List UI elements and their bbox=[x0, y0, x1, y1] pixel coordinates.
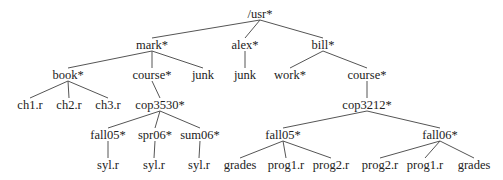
tree-node-b-fall06: fall06* bbox=[422, 129, 457, 142]
edge-b_fall06-f06_prog2 bbox=[380, 141, 440, 158]
tree-node-syl2: syl.r bbox=[143, 159, 165, 172]
edge-spr06-syl2 bbox=[154, 141, 155, 158]
tree-node-syl1: syl.r bbox=[97, 159, 119, 172]
tree-node-alex-junk: junk bbox=[234, 69, 256, 82]
tree-node-work: work* bbox=[274, 69, 306, 82]
edge-book-ch3 bbox=[68, 81, 108, 98]
tree-node-syl3: syl.r bbox=[188, 159, 210, 172]
edge-bill-bill_course bbox=[323, 51, 367, 68]
tree-node-ch2: ch2.r bbox=[56, 99, 81, 112]
tree-node-cop3530: cop3530* bbox=[135, 99, 184, 112]
edge-book-ch2 bbox=[68, 81, 69, 98]
tree-node-ch1: ch1.r bbox=[17, 99, 42, 112]
tree-node-f05-prog2: prog2.r bbox=[313, 159, 349, 172]
tree-node-spr06: spr06* bbox=[138, 129, 172, 142]
tree-node-sum06: sum06* bbox=[180, 129, 220, 142]
edge-usr-mark bbox=[152, 20, 260, 38]
edge-cop3212-b_fall06 bbox=[367, 111, 440, 128]
edge-usr-alex bbox=[245, 20, 260, 38]
edge-book-ch1 bbox=[30, 81, 68, 98]
edge-bill-work bbox=[290, 51, 323, 68]
tree-node-bill: bill* bbox=[312, 39, 335, 52]
edge-mark_course-cop3530 bbox=[152, 81, 160, 98]
tree-node-grades1: grades bbox=[224, 159, 257, 172]
edge-b_fall05-f05_prog1 bbox=[283, 141, 286, 158]
tree-node-f06-prog1: prog1.r bbox=[407, 159, 443, 172]
tree-node-usr: /usr* bbox=[248, 8, 273, 21]
edge-sum06-syl3 bbox=[199, 141, 200, 158]
tree-node-grades2: grades bbox=[458, 159, 491, 172]
tree-node-bill-course: course* bbox=[348, 69, 387, 82]
edge-cop3530-m_fall05 bbox=[108, 111, 160, 128]
tree-node-b-fall05: fall05* bbox=[265, 129, 300, 142]
edge-b_fall06-grades2 bbox=[440, 141, 474, 158]
edge-mark-mark_junk bbox=[152, 51, 203, 68]
edge-cop3530-sum06 bbox=[160, 111, 200, 128]
tree-node-mark-junk: junk bbox=[192, 69, 214, 82]
edge-cop3212-b_fall05 bbox=[283, 111, 367, 128]
tree-node-mark-course: course* bbox=[133, 69, 172, 82]
tree-node-cop3212: cop3212* bbox=[342, 99, 391, 112]
tree-node-mark: mark* bbox=[136, 39, 168, 52]
edge-b_fall05-grades1 bbox=[240, 141, 283, 158]
edge-cop3530-spr06 bbox=[155, 111, 160, 128]
tree-node-m-fall05: fall05* bbox=[90, 129, 125, 142]
edge-b_fall05-f05_prog2 bbox=[283, 141, 331, 158]
tree-node-book: book* bbox=[52, 69, 83, 82]
tree-node-f05-prog1: prog1.r bbox=[268, 159, 304, 172]
edge-usr-bill bbox=[260, 20, 323, 38]
tree-node-ch3: ch3.r bbox=[95, 99, 120, 112]
tree-node-f06-prog2: prog2.r bbox=[362, 159, 398, 172]
edge-mark-book bbox=[68, 51, 152, 68]
directory-tree-diagram: /usr*mark*alex*bill*book*course*junkjunk… bbox=[0, 0, 503, 180]
tree-edges bbox=[0, 0, 503, 180]
tree-node-alex: alex* bbox=[231, 39, 258, 52]
